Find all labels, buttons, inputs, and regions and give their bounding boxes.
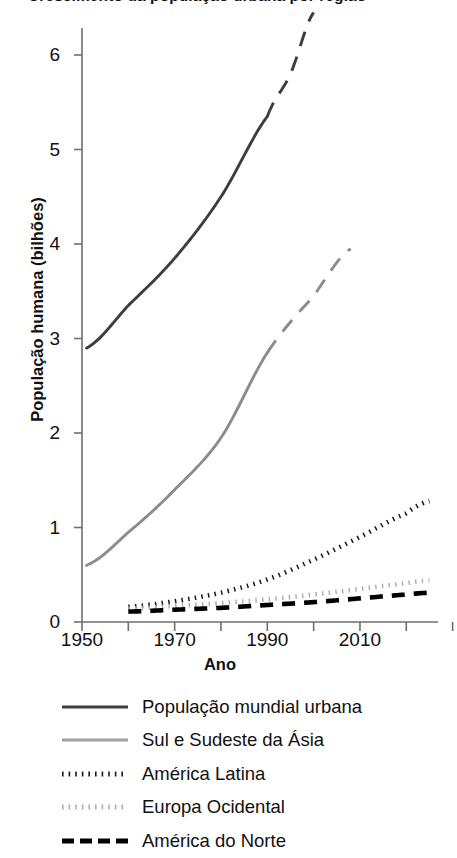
plot-area — [0, 0, 457, 660]
series-line — [128, 580, 429, 608]
series-line — [128, 593, 429, 612]
chart-legend: População mundial urbanaSul e Sudeste da… — [0, 690, 457, 858]
series-line — [87, 249, 351, 566]
legend-line-swatch — [62, 731, 128, 749]
legend-line-swatch — [62, 698, 128, 716]
data-series — [87, 12, 430, 611]
axis-ticks — [74, 55, 453, 631]
legend-line-swatch — [62, 832, 128, 850]
legend-line-swatch — [62, 765, 128, 783]
series-line — [128, 501, 429, 607]
axis-lines — [82, 28, 438, 622]
legend-item[interactable]: População mundial urbana — [0, 690, 457, 724]
legend-label: Europa Ocidental — [128, 798, 285, 817]
series-line — [87, 12, 314, 347]
chart-figure: Crescimento da população urbana por regi… — [0, 0, 457, 858]
legend-item[interactable]: Sul e Sudeste da Ásia — [0, 724, 457, 758]
legend-item[interactable]: Europa Ocidental — [0, 791, 457, 825]
legend-item[interactable]: América Latina — [0, 757, 457, 791]
legend-label: População mundial urbana — [128, 698, 362, 717]
legend-label: América do Norte — [128, 832, 286, 851]
legend-line-swatch — [62, 798, 128, 816]
legend-item[interactable]: América do Norte — [0, 824, 457, 858]
legend-label: Sul e Sudeste da Ásia — [128, 731, 324, 750]
legend-label: América Latina — [128, 765, 265, 784]
